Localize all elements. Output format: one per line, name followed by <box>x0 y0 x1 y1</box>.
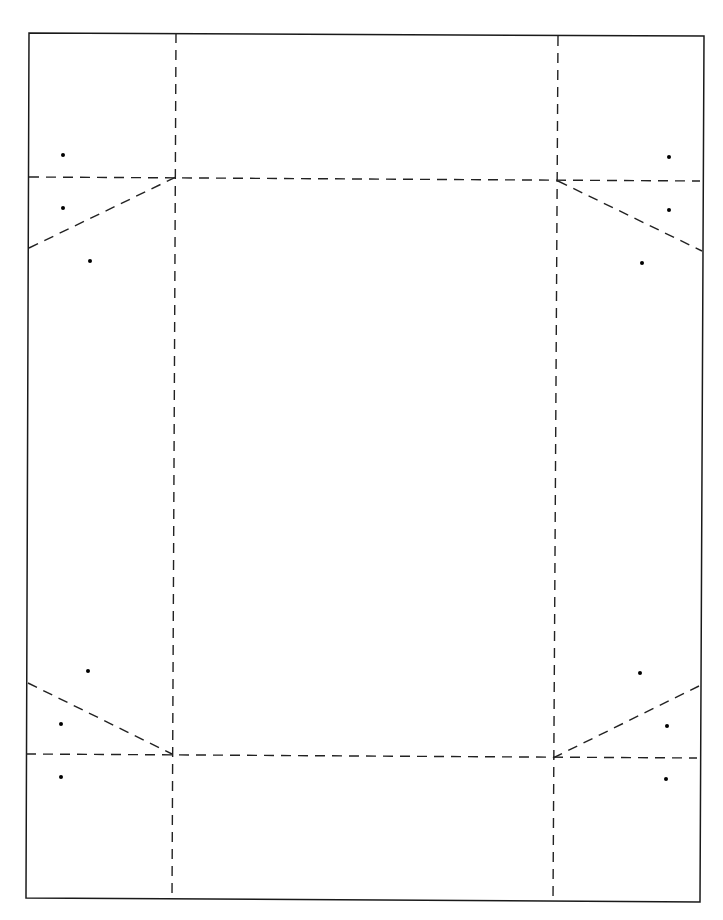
marker-dot-bottom-left-2 <box>59 722 63 726</box>
fold-line-right-vertical <box>553 36 558 902</box>
marker-dot-top-left-2 <box>61 206 65 210</box>
marker-dot-top-left-1 <box>61 153 65 157</box>
marker-dot-bottom-left-1 <box>86 669 90 673</box>
marker-dot-bottom-right-1 <box>638 671 642 675</box>
marker-dot-bottom-right-3 <box>664 777 668 781</box>
fold-pattern-diagram <box>0 0 723 920</box>
marker-dot-bottom-right-2 <box>665 724 669 728</box>
fold-line-top-horizontal <box>29 177 700 181</box>
fold-line-bottom-left-diagonal <box>28 683 172 754</box>
marker-dot-top-right-2 <box>667 208 671 212</box>
marker-dot-top-right-3 <box>640 261 644 265</box>
marker-dot-top-right-1 <box>667 155 671 159</box>
paper-outline <box>26 33 704 902</box>
marker-dot-top-left-3 <box>88 259 92 263</box>
fold-line-bottom-horizontal <box>26 754 697 758</box>
fold-line-top-left-diagonal <box>29 177 176 248</box>
marker-dot-bottom-left-3 <box>59 775 63 779</box>
fold-line-top-right-diagonal <box>558 181 702 251</box>
fold-line-left-vertical <box>172 33 176 898</box>
fold-line-bottom-right-diagonal <box>553 686 699 758</box>
